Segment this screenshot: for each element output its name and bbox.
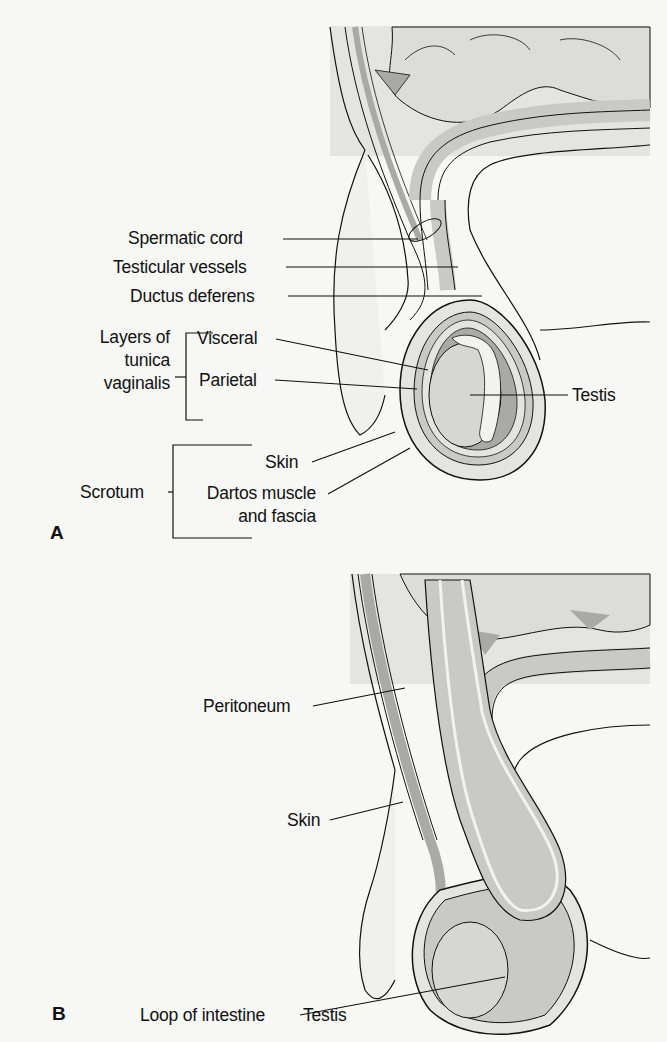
label-scrotum: Scrotum [80,482,144,502]
label-testis-a: Testis [572,385,616,405]
panel-b-illustration [0,560,667,1042]
panel-a: Spermatic cord Testicular vessels Ductus… [0,0,667,560]
label-layers-line3: vaginalis [60,372,170,395]
label-spermatic-cord: Spermatic cord [128,228,243,248]
panel-b-letter: B [52,1003,66,1025]
label-peritoneum: Peritoneum [203,696,291,716]
label-testis-b: Testis [303,1005,347,1025]
label-visceral: Visceral [197,328,257,348]
label-dartos-line2: and fascia [180,505,316,528]
label-dartos-muscle-and-fascia: Dartos muscle and fascia [180,482,316,528]
label-layers-line1: Layers of [60,326,170,349]
panel-a-illustration [0,0,667,560]
label-testicular-vessels: Testicular vessels [113,257,247,277]
label-loop-of-intestine: Loop of intestine [140,1005,265,1025]
label-dartos-line1: Dartos muscle [180,482,316,505]
label-skin-b: Skin [287,810,320,830]
label-skin-a: Skin [265,452,298,472]
label-ductus-deferens: Ductus deferens [130,286,254,306]
label-layers-of-tunica-vaginalis: Layers of tunica vaginalis [60,326,170,395]
panel-a-letter: A [50,522,64,544]
label-parietal: Parietal [199,370,257,390]
panel-b: Peritoneum Skin Loop of intestine B [0,560,667,1042]
label-layers-line2: tunica [60,349,170,372]
